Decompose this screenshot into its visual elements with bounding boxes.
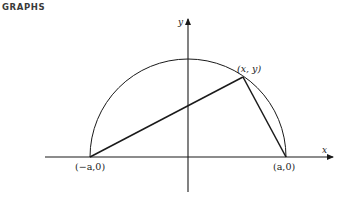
- x-axis-label: x: [322, 145, 327, 155]
- chord-left: [90, 77, 243, 157]
- point-label-left: (−a,0): [75, 161, 105, 172]
- point-label-top: (x, y): [237, 63, 261, 74]
- semicircle-diagram: x y (−a,0) (a,0) (x, y): [0, 0, 347, 204]
- point-label-right: (a,0): [273, 161, 295, 172]
- chord-right: [243, 77, 286, 157]
- y-axis-label: y: [177, 17, 184, 27]
